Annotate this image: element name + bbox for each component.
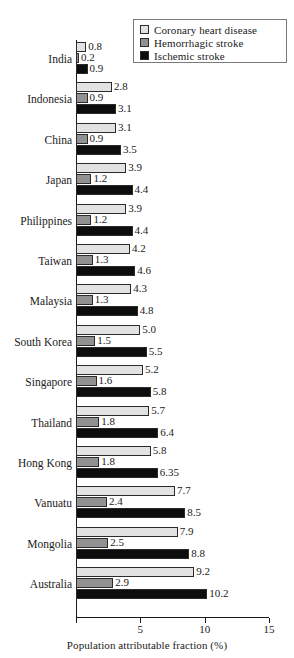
bar — [76, 428, 158, 438]
category-label: Vanuatu — [0, 497, 72, 509]
bar — [76, 93, 88, 103]
bar-value-label: 1.3 — [95, 293, 109, 306]
x-axis-title: Population attributable fraction (%) — [0, 639, 294, 651]
category-label: Indonesia — [0, 93, 72, 105]
bar — [76, 549, 189, 559]
bar-row: 1.3 — [76, 295, 286, 305]
bar — [76, 347, 147, 357]
bar-row: 2.4 — [76, 497, 286, 507]
bar — [76, 64, 88, 74]
bar — [76, 226, 133, 236]
bar-value-label: 9.2 — [196, 565, 210, 578]
bar-row: 6.4 — [76, 428, 286, 438]
bar-row: 2.8 — [76, 82, 286, 92]
bar — [76, 387, 151, 397]
category-label: Mongolia — [0, 538, 72, 550]
bar-row: 7.7 — [76, 486, 286, 496]
bar — [76, 508, 185, 518]
bar-value-label: 6.4 — [160, 426, 174, 439]
bar — [76, 527, 178, 537]
bar-group: Philippines3.91.24.4 — [0, 204, 294, 238]
bar-row: 0.9 — [76, 134, 286, 144]
category-label: China — [0, 134, 72, 146]
category-label: Malaysia — [0, 295, 72, 307]
bar-group: Japan3.91.24.4 — [0, 163, 294, 197]
bar — [76, 215, 91, 225]
bar-row: 8.5 — [76, 508, 286, 518]
bar-row: 3.5 — [76, 145, 286, 155]
bar-value-label: 4.8 — [140, 304, 154, 317]
bar-row: 2.5 — [76, 538, 286, 548]
bar-row: 3.1 — [76, 123, 286, 133]
category-label: Philippines — [0, 215, 72, 227]
bar — [76, 336, 95, 346]
bar-value-label: 4.3 — [133, 282, 147, 295]
bar-value-label: 5.7 — [151, 404, 165, 417]
bar-group: Malaysia4.31.34.8 — [0, 284, 294, 318]
bar — [76, 468, 158, 478]
bar-row: 5.5 — [76, 347, 286, 357]
legend-item-coronary-heart-disease: Coronary heart disease — [140, 23, 286, 36]
plot-area: 51015 India0.80.20.9Indonesia2.80.93.1Ch… — [0, 0, 294, 658]
bar-value-label: 5.5 — [149, 345, 163, 358]
bar-row: 1.5 — [76, 336, 286, 346]
bar — [76, 134, 88, 144]
bar-row: 7.9 — [76, 527, 286, 537]
bar-value-label: 3.5 — [123, 143, 137, 156]
bar — [76, 497, 107, 507]
bar-group: South Korea5.01.55.5 — [0, 325, 294, 359]
bar-group: Mongolia7.92.58.8 — [0, 527, 294, 561]
legend-item-hemorrhagic-stroke: Hemorrhagic stroke — [140, 36, 286, 49]
bar-value-label: 8.5 — [187, 506, 201, 519]
bar-value-label: 3.1 — [118, 102, 132, 115]
bar-value-label: 1.2 — [93, 172, 107, 185]
bar — [76, 185, 133, 195]
bar — [76, 417, 99, 427]
bar-value-label: 1.6 — [99, 374, 113, 387]
bar-value-label: 7.7 — [177, 484, 191, 497]
bar-row: 9.2 — [76, 567, 286, 577]
bar-row: 3.9 — [76, 163, 286, 173]
legend-swatch-hemorrhagic-stroke — [140, 38, 149, 47]
bar-value-label: 1.8 — [101, 455, 115, 468]
bar — [76, 376, 97, 386]
bar-row: 2.9 — [76, 578, 286, 588]
bar-row: 1.8 — [76, 417, 286, 427]
x-axis-tick-0 — [76, 618, 77, 623]
bar-value-label: 2.9 — [115, 576, 129, 589]
bar-group: Taiwan4.21.34.6 — [0, 244, 294, 278]
bar-row: 4.4 — [76, 226, 286, 236]
bar — [76, 145, 121, 155]
chart-legend: Coronary heart disease Hemorrhagic strok… — [133, 19, 287, 63]
category-label: Australia — [0, 578, 72, 590]
bar-row: 0.9 — [76, 93, 286, 103]
bar-value-label: 3.9 — [128, 202, 142, 215]
bar-value-label: 1.8 — [101, 415, 115, 428]
bar-group: Hong Kong5.81.86.35 — [0, 446, 294, 480]
category-label: Singapore — [0, 376, 72, 388]
bar-row: 10.2 — [76, 589, 286, 599]
x-axis-line — [76, 617, 269, 618]
legend-label-ischemic-stroke: Ischemic stroke — [154, 50, 225, 62]
bar-row: 8.8 — [76, 549, 286, 559]
bar-row: 4.4 — [76, 185, 286, 195]
bar — [76, 266, 135, 276]
bar-value-label: 4.4 — [135, 183, 149, 196]
bar — [76, 295, 93, 305]
bar-value-label: 7.9 — [180, 525, 194, 538]
bar — [76, 53, 79, 63]
x-axis-tick-label-5: 5 — [138, 623, 144, 635]
bar-value-label: 3.1 — [118, 121, 132, 134]
bar — [76, 174, 91, 184]
bar-value-label: 0.9 — [90, 132, 104, 145]
x-axis-tick-label-10: 10 — [199, 623, 210, 635]
bar — [76, 104, 116, 114]
bar-value-label: 5.0 — [142, 323, 156, 336]
bar-row: 3.1 — [76, 104, 286, 114]
category-label: Taiwan — [0, 255, 72, 267]
legend-item-ischemic-stroke: Ischemic stroke — [140, 49, 286, 62]
bar — [76, 567, 194, 577]
bar-row: 1.2 — [76, 215, 286, 225]
bar — [76, 457, 99, 467]
bar-group: China3.10.93.5 — [0, 123, 294, 157]
